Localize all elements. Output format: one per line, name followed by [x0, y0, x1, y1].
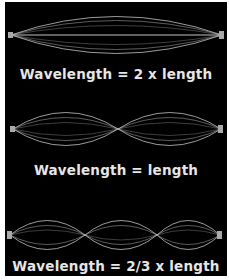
standing-wave-1-half [5, 10, 227, 60]
caption-1: Wavelength = 2 x length [5, 66, 227, 82]
standing-waves-diagram: Wavelength = 2 x length Wavelength = len… [5, 2, 227, 276]
caption-2: Wavelength = length [5, 162, 227, 178]
standing-wave-3-half [5, 212, 227, 258]
caption-3: Wavelength = 2/3 x length [5, 258, 227, 274]
standing-wave-2-half [5, 104, 227, 154]
